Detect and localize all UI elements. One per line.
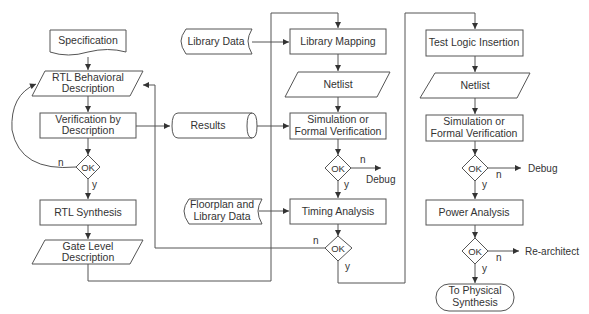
ok-label: OK <box>468 163 482 174</box>
n-label: n <box>360 154 366 165</box>
results-label: Results <box>190 119 225 131</box>
gate-level-node: Gate Level Description <box>32 240 143 264</box>
library-data-label: Library Data <box>187 35 244 47</box>
rtl-behavioral-node: RTL Behavioral Description <box>32 71 143 96</box>
y-label: y <box>345 261 350 272</box>
simulation-line1: Simulation or <box>443 115 505 127</box>
n-label: n <box>496 252 502 263</box>
ok-label: OK <box>331 163 345 174</box>
rearchitect-label: Re-architect <box>525 246 579 257</box>
debug-label: Debug <box>528 163 557 174</box>
specification-node: Specification <box>50 30 126 55</box>
y-label: y <box>92 179 97 190</box>
ok-label: OK <box>81 162 95 173</box>
timing-label: Timing Analysis <box>302 205 375 217</box>
netlist-node-3: Netlist <box>420 73 530 98</box>
ok-label: OK <box>331 243 345 254</box>
netlist-label: Netlist <box>460 79 489 91</box>
flowchart: Specification RTL Behavioral Description… <box>0 0 589 314</box>
library-mapping-node: Library Mapping <box>290 29 386 54</box>
verification-node: Verification by Description <box>40 113 136 138</box>
n-label: n <box>58 157 64 168</box>
results-node: Results <box>172 113 257 138</box>
gate-level-line2: Description <box>62 251 115 263</box>
y-label: y <box>482 179 487 190</box>
ok-decision-2: OK <box>325 155 351 181</box>
ok-label: OK <box>468 246 482 257</box>
specification-label: Specification <box>58 34 118 46</box>
rtl-behavioral-line2: Description <box>62 82 115 94</box>
ok-decision-1: OK <box>76 155 100 179</box>
floorplan-line1: Floorplan and <box>190 198 254 210</box>
n-label: n <box>313 235 319 246</box>
power-analysis-node: Power Analysis <box>426 200 523 225</box>
power-label: Power Analysis <box>438 206 509 218</box>
netlist-label: Netlist <box>323 78 352 90</box>
test-logic-label: Test Logic Insertion <box>429 36 520 48</box>
ok-decision-3: OK <box>325 236 352 261</box>
timing-analysis-node: Timing Analysis <box>290 199 386 224</box>
simulation-node-2: Simulation or Formal Verification <box>290 113 386 139</box>
rtl-synthesis-label: RTL Synthesis <box>54 206 122 218</box>
library-mapping-label: Library Mapping <box>300 35 375 47</box>
simulation-line2: Formal Verification <box>295 125 382 137</box>
verification-line2: Description <box>62 124 115 136</box>
physical-line2: Synthesis <box>452 296 498 308</box>
test-logic-node: Test Logic Insertion <box>426 30 523 56</box>
simulation-line2: Formal Verification <box>431 127 518 139</box>
library-data-node: Library Data <box>181 29 252 54</box>
ok-decision-4: OK <box>462 155 488 181</box>
floorplan-node: Floorplan and Library Data <box>184 198 262 224</box>
physical-line1: To Physical <box>448 284 501 296</box>
floorplan-line2: Library Data <box>193 210 250 222</box>
n-label: n <box>496 169 502 180</box>
netlist-node-2: Netlist <box>285 72 390 97</box>
simulation-node-3: Simulation or Formal Verification <box>426 115 523 141</box>
ok-decision-5: OK <box>462 238 488 264</box>
y-label: y <box>482 263 487 274</box>
rtl-synthesis-node: RTL Synthesis <box>40 200 136 225</box>
simulation-line1: Simulation or <box>307 113 369 125</box>
y-label: y <box>344 179 349 190</box>
debug-label: Debug <box>366 174 395 185</box>
to-physical-synthesis-node: To Physical Synthesis <box>436 284 514 311</box>
